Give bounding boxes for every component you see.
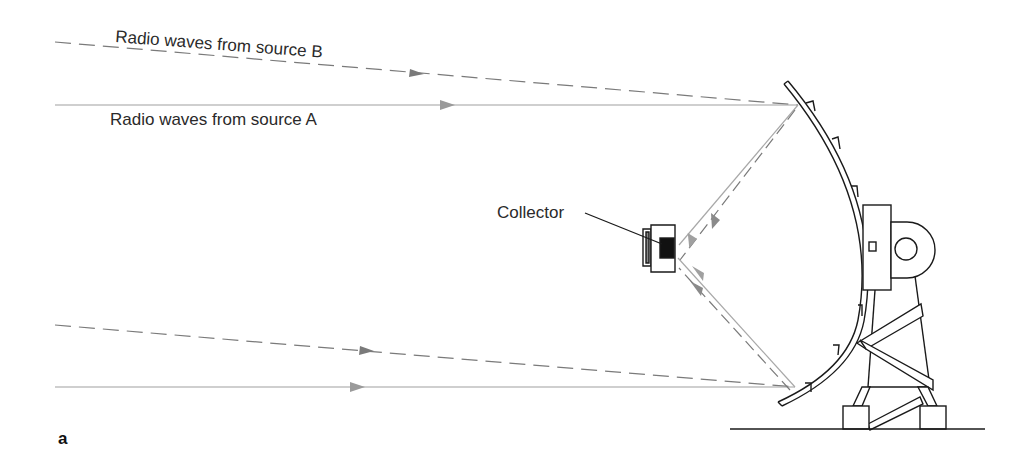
label-collector: Collector: [497, 203, 564, 222]
reflected-ray-a-upper: [679, 105, 798, 245]
radio-telescope-diagram: Radio waves from source B Radio waves fr…: [0, 0, 1034, 465]
arrowhead-icon: [440, 100, 455, 110]
arrowhead-icon: [711, 213, 720, 229]
label-source-a: Radio waves from source A: [110, 110, 318, 129]
ray-source-b-lower: [55, 325, 795, 387]
incoming-rays: [55, 42, 798, 392]
collector-receiver: [660, 238, 674, 258]
arrowhead-icon: [350, 382, 365, 392]
reflected-ray-a-lower: [678, 258, 795, 387]
arrowhead-icon: [359, 346, 374, 355]
panel-label: a: [58, 429, 68, 448]
arrowhead-icon: [688, 233, 698, 248]
reflected-ray-b-upper: [680, 110, 795, 260]
ray-source-b-upper: [55, 42, 798, 105]
collector: [643, 225, 675, 272]
parabolic-dish: [778, 81, 870, 406]
label-source-b: Radio waves from source B: [115, 27, 324, 62]
arrowhead-icon: [692, 266, 704, 281]
reflected-rays: [678, 105, 798, 390]
